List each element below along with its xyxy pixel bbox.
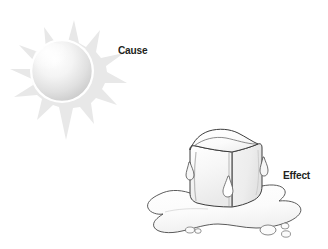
droplet-5 — [282, 231, 291, 237]
ice-cube-illustration — [148, 129, 301, 237]
illustration-canvas: Cause Effect — [0, 0, 328, 249]
sun-core-highlight — [33, 43, 73, 77]
cause-effect-artwork — [0, 0, 328, 249]
droplet-4 — [281, 223, 289, 229]
droplet-2 — [195, 229, 201, 234]
effect-label: Effect — [283, 170, 310, 181]
ice-cube-right-face — [232, 144, 262, 207]
droplet-3 — [260, 225, 276, 235]
sun-illustration — [10, 20, 127, 140]
cause-label: Cause — [118, 45, 147, 56]
droplet-1 — [186, 227, 195, 233]
